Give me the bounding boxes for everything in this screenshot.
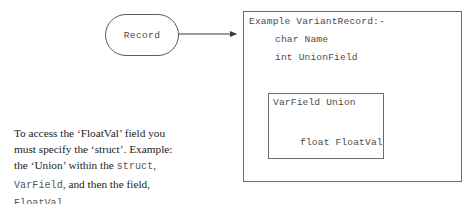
note-line-3: the ‘Union’ within the struct, xyxy=(14,157,232,175)
note-line-2: must specify the ‘struct’. Example: xyxy=(14,141,232,157)
note-line-1: To access the ‘FloatVal’ field you xyxy=(14,125,232,141)
struct-member-char-name: char Name xyxy=(275,34,328,45)
struct-box: Example VariantRecord:- char Name int Un… xyxy=(243,11,462,182)
explanatory-note: To access the ‘FloatVal’ field you must … xyxy=(14,125,232,204)
struct-member-int-unionfield: int UnionField xyxy=(275,52,358,63)
note-line-4-text: , and then the field, xyxy=(63,178,150,190)
note-line-4: VarField, and then the field, xyxy=(14,176,232,194)
note-line-3-text: the ‘Union’ within the xyxy=(14,159,117,171)
note-line-5-period: . xyxy=(63,196,66,204)
diagram-canvas: Record Example VariantRecord:- char Name… xyxy=(0,0,476,204)
union-member-float-floatval: float FloatVal xyxy=(300,137,383,148)
record-node: Record xyxy=(105,14,179,56)
note-code-floatval: FloatVal xyxy=(14,198,63,204)
note-code-struct: struct xyxy=(117,161,154,172)
note-code-varfield: VarField xyxy=(14,180,63,191)
union-header: VarField Union xyxy=(273,97,356,108)
record-node-label: Record xyxy=(124,30,161,41)
note-line-5: FloatVal. xyxy=(14,194,232,204)
note-line-3-comma: , xyxy=(153,159,156,171)
union-box: VarField Union float FloatVal xyxy=(268,93,384,159)
struct-header: Example VariantRecord:- xyxy=(249,16,385,27)
